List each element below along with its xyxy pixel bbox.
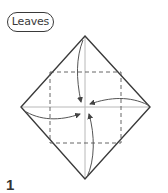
- step-number: 1: [6, 176, 14, 193]
- arrow-top-icon: [77, 40, 83, 102]
- arrow-left-icon: [23, 110, 80, 119]
- arrow-right-icon: [90, 99, 148, 106]
- fold-diagram: [0, 0, 168, 193]
- arrow-bottom-icon: [87, 114, 93, 177]
